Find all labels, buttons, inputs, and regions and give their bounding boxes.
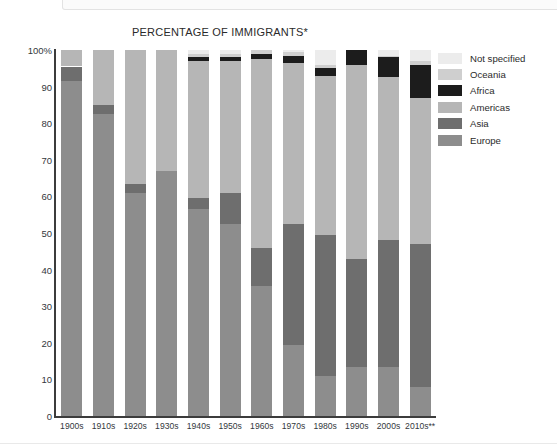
bar-segment[interactable] [188, 198, 209, 209]
bar-segment[interactable] [410, 244, 431, 387]
chart-legend: Not specifiedOceaniaAfricaAmericasAsiaEu… [438, 50, 550, 148]
chart-title: PERCENTAGE OF IMMIGRANTS* [0, 26, 440, 38]
bar-segment[interactable] [251, 286, 272, 416]
bar-stack [378, 50, 399, 416]
x-tick-label: 1970s [282, 421, 305, 431]
bar-segment[interactable] [61, 50, 82, 66]
bar-segment[interactable] [61, 81, 82, 416]
y-tick-label: 70 [8, 154, 52, 165]
bar-segment[interactable] [283, 52, 304, 56]
bar-segment[interactable] [220, 224, 241, 416]
legend-item[interactable]: Europe [438, 132, 550, 148]
bar-segment[interactable] [283, 56, 304, 63]
bar-segment[interactable] [188, 54, 209, 57]
bar-segment[interactable] [93, 50, 114, 105]
bar-segment[interactable] [220, 61, 241, 193]
bar-column[interactable] [283, 50, 304, 416]
bar-column[interactable] [220, 50, 241, 416]
bar-segment[interactable] [315, 65, 336, 69]
x-tick-label: 1900s [60, 421, 83, 431]
bar-segment[interactable] [251, 59, 272, 247]
y-tick-label: 40 [8, 264, 52, 275]
legend-item-label: Europe [470, 135, 501, 146]
y-tick-label: 30 [8, 301, 52, 312]
bar-segment[interactable] [378, 240, 399, 366]
bar-column[interactable] [251, 50, 272, 416]
bar-stack [156, 50, 177, 416]
bar-segment[interactable] [188, 209, 209, 416]
bar-segment[interactable] [156, 171, 177, 416]
bar-segment[interactable] [410, 387, 431, 416]
bar-column[interactable] [125, 50, 146, 416]
bar-column[interactable] [378, 50, 399, 416]
bar-column[interactable] [315, 50, 336, 416]
bar-segment[interactable] [410, 65, 431, 98]
bar-segment[interactable] [378, 50, 399, 55]
bar-column[interactable] [61, 50, 82, 416]
bar-segment[interactable] [315, 235, 336, 376]
legend-item-label: Americas [470, 102, 510, 113]
y-axis-tick-labels: 0102030405060708090100% [0, 0, 52, 446]
bar-column[interactable] [156, 50, 177, 416]
bar-segment[interactable] [125, 50, 146, 184]
bar-segment[interactable] [251, 248, 272, 286]
bar-segment[interactable] [283, 345, 304, 416]
bar-stack [188, 50, 209, 416]
bar-stack [220, 50, 241, 416]
bar-segment[interactable] [346, 50, 367, 65]
bar-segment[interactable] [315, 76, 336, 235]
bar-stack [125, 50, 146, 416]
bar-segment[interactable] [378, 77, 399, 240]
bar-segment[interactable] [315, 50, 336, 65]
page-bottom-rule [0, 443, 557, 444]
bar-segment[interactable] [220, 50, 241, 54]
legend-item[interactable]: Africa [438, 83, 550, 99]
bar-segment[interactable] [315, 376, 336, 416]
bar-column[interactable] [346, 50, 367, 416]
bar-segment[interactable] [61, 67, 82, 82]
legend-swatch [438, 118, 462, 129]
bar-segment[interactable] [346, 65, 367, 259]
legend-item-label: Oceania [470, 69, 506, 80]
bar-segment[interactable] [283, 224, 304, 345]
legend-swatch [438, 53, 462, 64]
bar-segment[interactable] [125, 193, 146, 416]
bar-segment[interactable] [188, 50, 209, 54]
bar-segment[interactable] [378, 56, 399, 58]
bar-segment[interactable] [251, 50, 272, 54]
bar-segment[interactable] [188, 61, 209, 198]
bar-segment[interactable] [93, 105, 114, 114]
bar-segment[interactable] [410, 98, 431, 244]
x-tick-label: 1980s [313, 421, 336, 431]
legend-item[interactable]: Not specified [438, 50, 550, 66]
top-panel-edge [62, 0, 557, 10]
bar-segment[interactable] [378, 367, 399, 416]
bar-segment[interactable] [378, 57, 399, 77]
bar-segment[interactable] [410, 61, 431, 65]
bar-segment[interactable] [283, 63, 304, 224]
bar-segment[interactable] [93, 114, 114, 416]
bar-segment[interactable] [220, 193, 241, 224]
bar-segment[interactable] [220, 57, 241, 61]
bar-segment[interactable] [346, 367, 367, 416]
legend-item[interactable]: Asia [438, 116, 550, 132]
bar-segment[interactable] [251, 54, 272, 59]
bar-segment[interactable] [156, 50, 177, 171]
bar-column[interactable] [188, 50, 209, 416]
bar-segment[interactable] [220, 54, 241, 57]
y-tick-label: 90 [8, 81, 52, 92]
x-tick-label: 1910s [92, 421, 115, 431]
bar-column[interactable] [410, 50, 431, 416]
legend-item[interactable]: Americas [438, 99, 550, 115]
bar-segment[interactable] [283, 50, 304, 52]
bar-stack [283, 50, 304, 416]
legend-item[interactable]: Oceania [438, 66, 550, 82]
bar-column[interactable] [93, 50, 114, 416]
bar-segment[interactable] [125, 184, 146, 193]
plot-area [56, 50, 436, 416]
y-tick-label: 80 [8, 118, 52, 129]
bar-segment[interactable] [188, 57, 209, 61]
bar-segment[interactable] [346, 259, 367, 367]
bar-segment[interactable] [315, 68, 336, 75]
bar-segment[interactable] [410, 50, 431, 61]
